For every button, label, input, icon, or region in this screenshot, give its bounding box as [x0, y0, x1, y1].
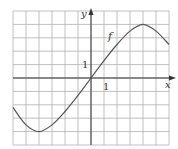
curve-label: f	[107, 30, 114, 43]
function-graph: y x f 1 1	[0, 0, 178, 149]
y-axis-arrow-icon	[89, 8, 94, 15]
x-tick-label: 1	[103, 81, 109, 92]
y-tick-label: 1	[82, 59, 88, 70]
y-axis-label: y	[80, 8, 87, 19]
x-axis-label: x	[165, 79, 171, 90]
